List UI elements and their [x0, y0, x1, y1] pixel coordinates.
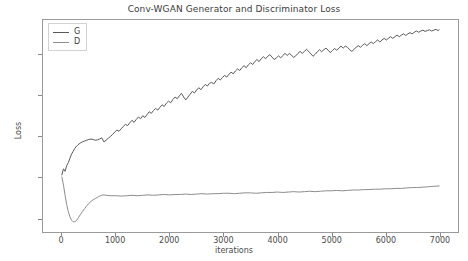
chart-figure: Conv-WGAN Generator and Discriminator Lo…: [0, 0, 468, 261]
x-tick-label: 5000: [322, 236, 342, 245]
x-tick-label: 4000: [267, 236, 287, 245]
legend-item-d: D: [53, 37, 80, 47]
legend-label-d: D: [74, 37, 80, 47]
x-axis-label: iterations: [0, 246, 468, 255]
plot-area: [42, 19, 459, 233]
legend-label-g: G: [74, 27, 80, 37]
plot-lines: [43, 20, 458, 232]
x-tick-label: 2000: [159, 236, 179, 245]
legend-item-g: G: [53, 27, 80, 37]
y-axis-label: Loss: [14, 101, 23, 161]
x-tick-label: 0: [58, 236, 63, 245]
series-line-d: [62, 177, 439, 222]
x-tick-mark: [332, 233, 333, 237]
x-tick-mark: [223, 233, 224, 237]
x-tick-mark: [115, 233, 116, 237]
x-tick-label: 3000: [213, 236, 233, 245]
x-tick-mark: [278, 233, 279, 237]
legend-line-swatch-d: [53, 42, 69, 43]
chart-legend: G D: [48, 23, 87, 51]
x-tick-mark: [386, 233, 387, 237]
legend-line-swatch-g: [53, 32, 69, 33]
x-tick-mark: [61, 233, 62, 237]
series-line-g: [62, 29, 439, 175]
x-tick-mark: [169, 233, 170, 237]
chart-title: Conv-WGAN Generator and Discriminator Lo…: [0, 4, 468, 14]
x-tick-label: 1000: [105, 236, 125, 245]
x-tick-label: 6000: [376, 236, 396, 245]
x-tick-label: 7000: [430, 236, 450, 245]
x-tick-mark: [440, 233, 441, 237]
